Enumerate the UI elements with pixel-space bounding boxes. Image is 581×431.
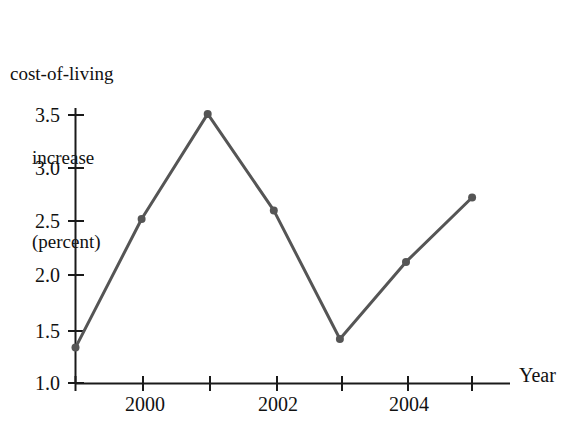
x-axis-title: Year [519, 365, 556, 385]
data-series-markers [72, 110, 477, 352]
data-point-2005 [468, 194, 476, 202]
data-series-line [76, 114, 473, 348]
data-point-2004 [402, 258, 410, 266]
y-tick-label-3-5: 3.5 [4, 105, 60, 125]
x-tick-label-2002: 2002 [243, 394, 313, 414]
y-tick-label-3-0: 3.0 [4, 158, 60, 178]
x-tick-label-2004: 2004 [374, 394, 444, 414]
y-tick-label-1-0: 1.0 [4, 373, 60, 393]
data-point-2000 [138, 215, 146, 223]
data-point-2003 [336, 335, 344, 343]
y-tick-label-1-5: 1.5 [4, 321, 60, 341]
x-tick-label-2000: 2000 [110, 394, 180, 414]
data-point-2001 [204, 110, 212, 118]
chart-canvas: cost-of-living increase (percent) [0, 0, 581, 431]
data-point-1999 [72, 344, 80, 352]
y-tick-label-2-0: 2.0 [4, 265, 60, 285]
data-point-2002 [270, 206, 278, 214]
plot-area [0, 0, 581, 431]
y-tick-label-2-5: 2.5 [4, 211, 60, 231]
